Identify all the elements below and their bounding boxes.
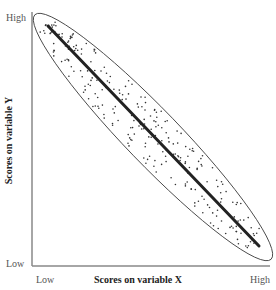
y-axis-title: Scores on variable Y bbox=[3, 81, 14, 201]
y-axis-low-label: Low bbox=[6, 258, 24, 269]
y-axis-high-label: High bbox=[6, 12, 26, 23]
scatter-plot bbox=[0, 0, 276, 290]
regression-line bbox=[48, 26, 259, 246]
x-axis-title: Scores on variable X bbox=[0, 274, 276, 285]
data-ellipse bbox=[15, 0, 276, 278]
